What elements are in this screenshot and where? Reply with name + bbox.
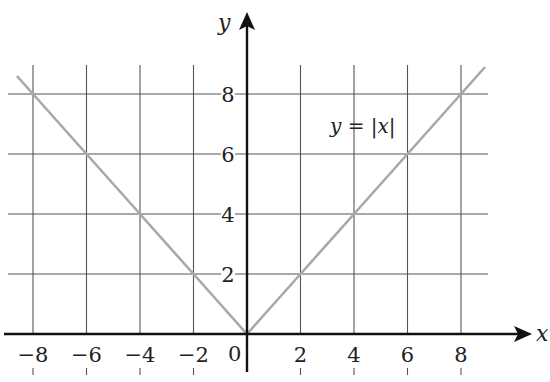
chart: x y 0 y = |x| −8−6−4−22468 2468 [0,0,550,382]
x-tick-label: 4 [347,343,360,367]
x-tick-label: 6 [401,343,414,367]
x-axis-label: x [536,321,549,346]
x-tick-label: −2 [178,343,209,367]
curve-equation-label: y = |x| [329,114,396,139]
curve-y-abs-x [17,67,485,334]
y-tick-label: 6 [221,143,234,167]
y-tick-label: 2 [221,263,234,287]
axes [4,12,532,372]
y-axis-label: y [217,10,231,35]
y-tick-label: 8 [221,83,234,107]
origin-label: 0 [228,342,241,366]
y-tick-label: 4 [221,203,234,227]
y-tick-labels: 2468 [221,83,234,287]
x-tick-labels: −8−6−4−22468 [18,343,468,367]
x-tick-label: −8 [18,343,49,367]
x-tick-label: −6 [71,343,102,367]
x-tick-label: −4 [125,343,156,367]
x-tick-label: 8 [454,343,467,367]
x-tick-label: 2 [294,343,307,367]
curve-line [17,67,485,334]
